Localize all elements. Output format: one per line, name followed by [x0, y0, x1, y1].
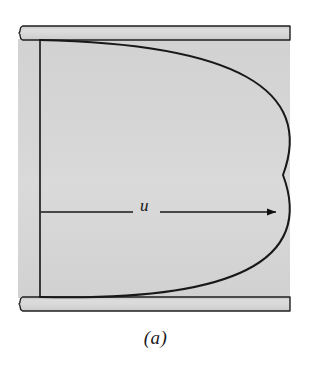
velocity-profile-diagram	[0, 0, 311, 368]
top-plate	[19, 26, 290, 40]
figure-container: u (a)	[0, 0, 311, 368]
figure-caption: (a)	[0, 327, 311, 349]
velocity-label-u: u	[140, 196, 149, 216]
bottom-plate	[19, 297, 290, 311]
